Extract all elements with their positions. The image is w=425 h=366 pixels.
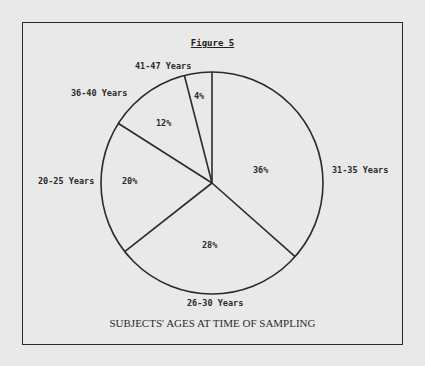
category-label-20-25: 20-25 Years bbox=[38, 176, 94, 186]
figure-caption: SUBJECTS' AGES AT TIME OF SAMPLING bbox=[0, 317, 425, 329]
category-label-26-30: 26-30 Years bbox=[187, 298, 243, 308]
category-label-41-47: 41-47 Years bbox=[135, 61, 191, 71]
slice-boundary-36 bbox=[212, 183, 295, 257]
category-label-36-40: 36-40 Years bbox=[71, 88, 127, 98]
slice-value-36-40: 12% bbox=[156, 118, 171, 128]
slice-value-41-47: 4% bbox=[194, 91, 204, 101]
slice-value-26-30: 28% bbox=[202, 240, 217, 250]
slice-value-31-35: 36% bbox=[253, 165, 268, 175]
category-label-31-35: 31-35 Years bbox=[332, 165, 388, 175]
slice-value-20-25: 20% bbox=[122, 176, 137, 186]
slice-boundary-64 bbox=[125, 183, 212, 252]
slice-boundary-84 bbox=[119, 124, 213, 184]
